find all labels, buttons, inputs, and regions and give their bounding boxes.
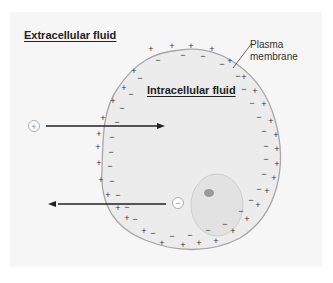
svg-text:−: −	[128, 89, 133, 99]
svg-text:+: +	[252, 86, 257, 96]
svg-text:−: −	[249, 98, 254, 108]
svg-text:+: +	[31, 122, 36, 132]
svg-text:+: +	[110, 96, 115, 106]
svg-text:−: −	[124, 202, 129, 212]
svg-text:−: −	[241, 84, 246, 94]
svg-text:+: +	[131, 66, 136, 76]
svg-text:+: +	[241, 72, 246, 82]
svg-text:+: +	[98, 175, 103, 185]
svg-text:−: −	[109, 132, 114, 142]
plasma-membrane-label-line1: Plasma	[250, 39, 298, 51]
svg-text:+: +	[105, 190, 110, 200]
svg-text:−: −	[200, 51, 205, 61]
svg-text:+: +	[274, 159, 279, 169]
svg-text:+: +	[271, 173, 276, 183]
svg-text:−: −	[263, 154, 268, 164]
svg-text:+: +	[180, 240, 185, 250]
svg-text:+: +	[273, 130, 278, 140]
svg-text:+: +	[188, 41, 193, 51]
svg-text:−: −	[261, 126, 266, 136]
intracellular-fluid-label: Intracellular fluid	[147, 84, 236, 96]
svg-text:−: −	[219, 59, 224, 69]
svg-text:+: +	[141, 226, 146, 236]
svg-text:−: −	[169, 231, 174, 241]
svg-text:−: −	[180, 50, 185, 60]
svg-text:+: +	[169, 41, 174, 51]
svg-text:+: +	[96, 158, 101, 168]
svg-text:+: +	[121, 83, 126, 93]
svg-text:+: +	[148, 44, 153, 54]
svg-text:−: −	[109, 176, 114, 186]
nucleolus	[204, 189, 214, 197]
svg-text:−: −	[107, 161, 112, 171]
svg-text:−: −	[187, 230, 192, 240]
svg-text:+: +	[264, 186, 269, 196]
svg-text:−: −	[261, 169, 266, 179]
svg-text:−: −	[256, 112, 261, 122]
svg-text:+: +	[100, 113, 105, 123]
svg-text:−: −	[155, 55, 160, 65]
svg-text:−: −	[175, 198, 180, 208]
svg-text:−: −	[114, 117, 119, 127]
svg-text:−: −	[108, 147, 113, 157]
svg-text:+: +	[95, 142, 100, 152]
svg-text:+: +	[124, 213, 129, 223]
svg-text:−: −	[248, 195, 253, 205]
svg-text:−: −	[205, 225, 210, 235]
plasma-membrane-label: Plasma membrane	[250, 39, 298, 63]
extracellular-fluid-label: Extracellular fluid	[24, 29, 116, 41]
svg-text:+: +	[159, 238, 164, 248]
svg-text:+: +	[255, 200, 260, 210]
svg-text:+: +	[115, 203, 120, 213]
svg-text:+: +	[261, 99, 266, 109]
svg-text:+: +	[274, 144, 279, 154]
svg-text:−: −	[115, 190, 120, 200]
svg-text:−: −	[256, 184, 261, 194]
svg-text:−: −	[132, 214, 137, 224]
svg-text:−: −	[222, 219, 227, 229]
svg-text:+: +	[230, 226, 235, 236]
plasma-membrane-label-line2: membrane	[250, 51, 298, 63]
svg-text:+: +	[209, 44, 214, 54]
svg-text:+: +	[96, 129, 101, 139]
svg-text:+: +	[196, 238, 201, 248]
svg-text:+: +	[227, 56, 232, 66]
svg-text:−: −	[119, 103, 124, 113]
svg-text:−: −	[263, 141, 268, 151]
svg-text:+: +	[244, 214, 249, 224]
svg-text:−: −	[150, 228, 155, 238]
svg-text:−: −	[137, 73, 142, 83]
svg-text:+: +	[213, 236, 218, 246]
svg-text:−: −	[235, 71, 240, 81]
svg-text:−: −	[238, 206, 243, 216]
svg-text:+: +	[268, 116, 273, 126]
